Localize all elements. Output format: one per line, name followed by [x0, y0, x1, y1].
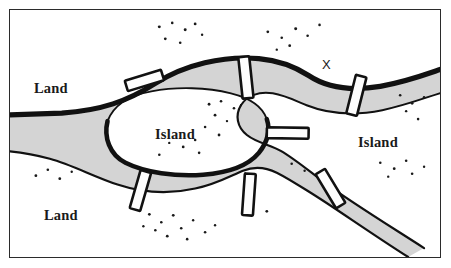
bridge-6-deck	[242, 173, 256, 215]
label-island-center: Island	[155, 127, 195, 142]
bridges-map-figure: Land Land Island Island X	[0, 0, 451, 268]
bridge-4-deck	[267, 127, 309, 139]
label-x-marker: X	[322, 58, 331, 71]
label-land-lower: Land	[44, 208, 78, 223]
label-island-right: Island	[358, 135, 398, 150]
map-frame-border: Land Land Island Island X	[9, 9, 441, 258]
water-channel	[10, 58, 440, 257]
label-land-upper: Land	[34, 81, 68, 96]
bridge-4[interactable]	[267, 127, 309, 139]
bridge-6[interactable]	[242, 173, 256, 215]
